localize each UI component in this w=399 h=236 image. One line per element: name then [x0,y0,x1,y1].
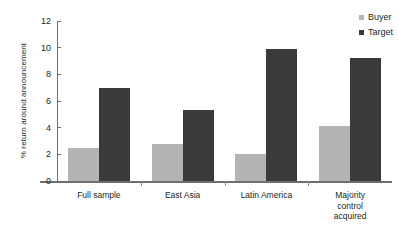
legend-item-target: Target [359,27,393,37]
legend-label-buyer: Buyer [368,12,392,22]
x-tick-mark [308,181,309,186]
y-tick-label: 4 [46,123,57,133]
y-tick-label: 12 [41,16,57,26]
bar-target [350,58,381,181]
x-tick-mark [141,181,142,186]
clipped-title-sliver: Table 4.2. Abnormal returns [4,0,254,2]
bar-chart: Table 4.2. Abnormal returns % return aro… [0,0,399,236]
bar-target [183,110,214,181]
legend-label-target: Target [368,27,393,37]
bar-group [141,21,225,181]
y-tick-label: 10 [41,43,57,53]
y-axis-label: % return around announcement [19,16,28,186]
square-swatch-icon [359,30,364,35]
bar-target [99,88,130,181]
x-axis-line [40,181,392,183]
bar-groups [57,21,392,181]
square-swatch-icon [359,15,364,20]
bar-buyer [235,154,266,181]
x-axis-label-line: control [308,201,392,212]
x-axis-label: Full sample [57,190,141,222]
bar-target [266,49,297,181]
x-axis-label-line: East Asia [141,190,225,201]
bar-buyer [68,148,99,181]
x-axis-label: East Asia [141,190,225,222]
y-tick-label: 0 [46,176,57,186]
x-tick-mark [225,181,226,186]
x-axis-label-line: Latin America [225,190,309,201]
x-axis-label-line: Majority [308,190,392,201]
x-axis-label-line: acquired [308,211,392,222]
bar-group [308,21,392,181]
x-axis-label-line: Full sample [57,190,141,201]
bar-buyer [152,144,183,181]
chart-legend: Buyer Target [359,12,393,37]
plot-area: 024681012 [57,21,392,181]
x-axis-label: Latin America [225,190,309,222]
y-tick-label: 8 [46,69,57,79]
x-axis-label: Majoritycontrolacquired [308,190,392,222]
bar-buyer [319,126,350,181]
bar-group [57,21,141,181]
x-axis-labels: Full sampleEast AsiaLatin AmericaMajorit… [57,190,392,222]
legend-item-buyer: Buyer [359,12,393,22]
y-tick-label: 6 [46,96,57,106]
y-tick-label: 2 [46,149,57,159]
bar-group [225,21,309,181]
